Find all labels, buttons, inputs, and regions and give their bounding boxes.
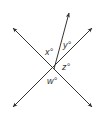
angle-label-y: y°	[62, 40, 72, 50]
angle-diagram: x° y° z° w°	[0, 0, 103, 118]
angle-label-w: w°	[47, 76, 57, 86]
angle-label-x: x°	[44, 47, 54, 57]
angle-label-z: z°	[61, 62, 71, 72]
